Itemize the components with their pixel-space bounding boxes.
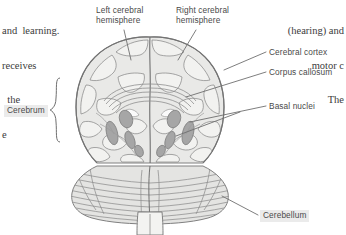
body-text-left-line-2: receives bbox=[2, 60, 59, 72]
brainstem bbox=[137, 212, 163, 235]
leader-cerebral-cortex bbox=[224, 52, 266, 70]
label-cerebral-cortex: Cerebral cortex bbox=[269, 48, 327, 58]
label-cerebrum: Cerebrum bbox=[4, 105, 48, 117]
body-text-right-line-1: (hearing) and bbox=[288, 25, 344, 37]
leader-cerebellum bbox=[222, 196, 258, 215]
cerebrum-group bbox=[76, 36, 224, 166]
label-corpus-callosum: Corpus callosum bbox=[269, 68, 332, 78]
body-text-left: and learning. receives the e bbox=[2, 2, 59, 152]
label-cerebellum: Cerebellum bbox=[260, 210, 309, 222]
body-text-left-line-3: the bbox=[2, 94, 59, 106]
label-right-cerebral-hemisphere: Right cerebral hemisphere bbox=[176, 6, 229, 25]
body-text-right: (hearing) and motor c The bbox=[288, 2, 344, 117]
body-text-left-line-1: and learning. bbox=[2, 25, 59, 37]
label-left-cerebral-hemisphere: Left cerebral hemisphere bbox=[96, 6, 143, 25]
body-text-left-line-4: e bbox=[2, 129, 59, 141]
label-basal-nuclei: Basal nuclei bbox=[269, 102, 315, 112]
